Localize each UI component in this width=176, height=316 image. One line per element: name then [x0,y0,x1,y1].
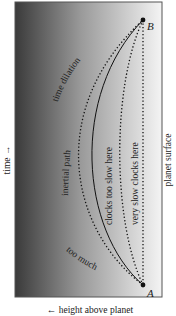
time-axis-label: time → [2,146,12,175]
label-clocks-too-slow: clocks too slow here [104,147,114,225]
spacetime-diagram: time dilation too much inertial path clo… [0,0,176,316]
point-b-label: B [147,20,154,32]
point-a-marker [141,283,146,288]
point-a-label: A [146,287,154,299]
planet-surface-label: planet surface [163,133,173,186]
point-b-marker [141,18,146,23]
height-axis-label: ← height above planet [47,305,134,315]
label-very-slow-clocks: very slow clocks here [130,142,140,225]
